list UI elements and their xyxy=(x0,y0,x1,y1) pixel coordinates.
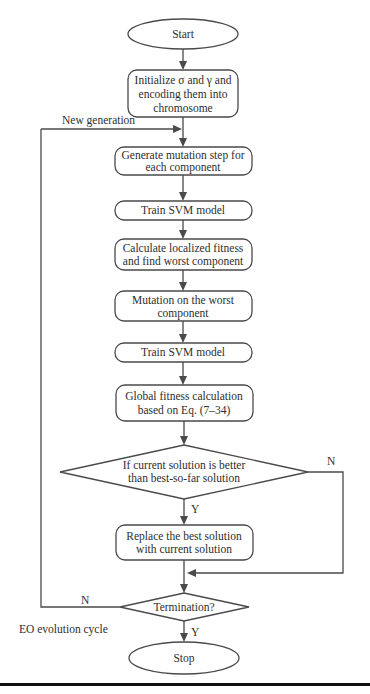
start-label: Start xyxy=(172,28,195,40)
init-label-line2: encoding them into xyxy=(139,88,228,101)
global-label-line1: Global fitness calculation xyxy=(125,390,243,402)
arrow-head xyxy=(179,230,187,239)
termination-yes-label: Y xyxy=(191,626,200,638)
decision-label-line2: than best-so-far solution xyxy=(128,472,240,484)
decision-yes-label: Y xyxy=(191,503,200,515)
arrow-head xyxy=(179,61,187,70)
termination-label: Termination? xyxy=(153,601,214,613)
loop-back-connector xyxy=(41,129,120,607)
arrow-head xyxy=(179,282,187,291)
arrow-head xyxy=(173,125,182,133)
train-svm-label-1: Train SVM model xyxy=(141,204,225,216)
replace-label-line1: Replace the best solution xyxy=(126,530,242,543)
arrow-head xyxy=(179,192,187,201)
calculate-label-line2: and find worst component xyxy=(123,255,244,268)
arrow-head xyxy=(179,138,187,147)
arrow-head xyxy=(187,569,196,577)
arrow-head xyxy=(180,516,188,525)
stop-label: Stop xyxy=(173,652,194,665)
arrow-head xyxy=(180,584,188,593)
init-label-line3: chromosome xyxy=(153,102,212,114)
bottom-rule xyxy=(0,683,370,686)
arrow-head xyxy=(179,376,187,385)
replace-label-line2: with current solution xyxy=(136,543,232,555)
decision-label-line1: If current solution is better xyxy=(123,459,246,471)
arrow-head xyxy=(180,436,188,445)
cycle-label: EO evolution cycle xyxy=(19,623,108,636)
generate-label-line2: each component xyxy=(145,161,221,174)
mutation-label-line1: Mutation on the worst xyxy=(132,294,235,306)
train-svm-label-2: Train SVM model xyxy=(141,346,225,358)
init-label-line1: Initialize σ and γ and xyxy=(135,74,232,87)
arrow-head xyxy=(180,633,188,642)
new-generation-label: New generation xyxy=(62,114,135,127)
flowchart: Start Initialize σ and γ and encoding th… xyxy=(0,0,370,694)
mutation-label-line2: component xyxy=(157,307,209,320)
termination-no-label: N xyxy=(81,594,90,606)
decision-no-label: N xyxy=(327,455,336,467)
global-label-line2: based on Eq. (7–34) xyxy=(138,404,231,417)
arrow-head xyxy=(179,334,187,343)
calculate-label-line1: Calculate localized fitness xyxy=(123,242,244,254)
